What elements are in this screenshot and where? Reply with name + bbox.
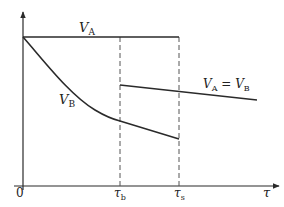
x-axis-label: τ	[263, 185, 271, 200]
origin-label: 0	[16, 186, 24, 200]
tau-s-label: τs	[174, 186, 185, 202]
tau-b-label: τb	[114, 186, 126, 202]
vb-label: VB	[59, 92, 75, 109]
va-equals-vb-label: VA = VB	[203, 77, 250, 93]
vb-curve	[23, 37, 179, 139]
diagram-canvas: VA VB VA = VB 0 τb τs τ	[0, 0, 284, 207]
va-label: VA	[79, 20, 95, 37]
